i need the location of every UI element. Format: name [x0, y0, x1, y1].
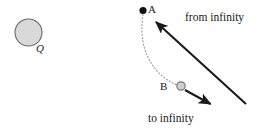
point-b-marker	[177, 82, 185, 90]
point-a-label: A	[148, 4, 156, 15]
outgoing-arrow	[185, 90, 211, 104]
from-infinity-label: from infinity	[185, 12, 244, 24]
to-infinity-label: to infinity	[148, 113, 194, 125]
incoming-arrow	[156, 22, 246, 104]
point-b-label: B	[160, 81, 167, 92]
physics-diagram: Q A B from infinity to infinity	[0, 0, 259, 130]
charge-q-label: Q	[36, 43, 44, 54]
point-a-marker	[139, 7, 146, 14]
